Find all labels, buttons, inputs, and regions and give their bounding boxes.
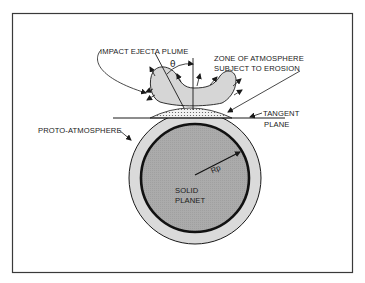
solid-planet [141, 124, 249, 232]
angle-label: θ [170, 59, 176, 69]
ejecta-plume-leader [97, 50, 146, 93]
erosion-zone-cap [150, 108, 232, 118]
proto-atmosphere-leader [119, 130, 131, 140]
zone-leader [228, 71, 300, 112]
tangent-label-line1: TANGENT [263, 109, 300, 118]
diagram-canvas: θ Rp SOLID PLANET IMPACT EJECTA PLUME ZO… [0, 0, 365, 283]
zone-label-line2: SUBJECT TO EROSION [214, 64, 300, 73]
proto-atmosphere-label: PROTO-ATMOSPHERE [38, 126, 122, 135]
solid-planet-label-line2: PLANET [175, 196, 205, 205]
tangent-label-line2: PLANE [264, 120, 289, 129]
zone-label-line1: ZONE OF ATMOSPHERE [214, 54, 304, 63]
tangent-leader [250, 113, 262, 117]
solid-planet-label-line1: SOLID [175, 186, 199, 195]
ejecta-plume-label: IMPACT EJECTA PLUME [100, 47, 188, 56]
